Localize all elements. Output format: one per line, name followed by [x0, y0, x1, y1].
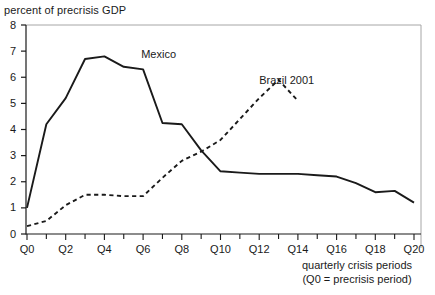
y-tick-label: 4: [2, 124, 16, 135]
chart-series-lines: [27, 56, 414, 226]
x-tick-label: Q14: [281, 244, 315, 255]
x-tick-label: Q4: [87, 244, 121, 255]
y-tick-label: 0: [2, 229, 16, 240]
x-axis-title: quarterly crisis periods: [292, 258, 422, 272]
x-tick-label: Q8: [165, 244, 199, 255]
x-tick-label: Q10: [204, 244, 238, 255]
series-label-mexico: Mexico: [141, 48, 176, 61]
x-tick-label: Q20: [397, 244, 431, 255]
y-tick-label: 5: [2, 98, 16, 109]
axis-lines: [26, 25, 421, 235]
series-label-brazil-2001: Brazil 2001: [259, 74, 314, 87]
y-tick-label: 2: [2, 176, 16, 187]
x-tick-label: Q0: [10, 244, 44, 255]
series-line-brazil-2001: [27, 80, 298, 226]
y-axis-ticks: [21, 25, 26, 234]
x-axis-ticks: [27, 234, 414, 240]
y-tick-label: 3: [2, 150, 16, 161]
y-tick-label: 6: [2, 72, 16, 83]
x-tick-label: Q2: [49, 244, 83, 255]
y-tick-label: 7: [2, 46, 16, 57]
x-tick-label: Q16: [320, 244, 354, 255]
x-tick-label: Q6: [126, 244, 160, 255]
series-line-mexico: [27, 56, 414, 208]
y-tick-label: 1: [2, 202, 16, 213]
x-axis-title-note: (Q0 = precrisis period): [292, 272, 422, 286]
y-tick-label: 8: [2, 20, 16, 31]
x-tick-label: Q12: [242, 244, 276, 255]
y-axis-title: percent of precrisis GDP: [4, 4, 126, 17]
x-tick-label: Q18: [358, 244, 392, 255]
chart-figure: percent of precrisis GDP 012345678 Q0Q2Q…: [0, 0, 435, 295]
